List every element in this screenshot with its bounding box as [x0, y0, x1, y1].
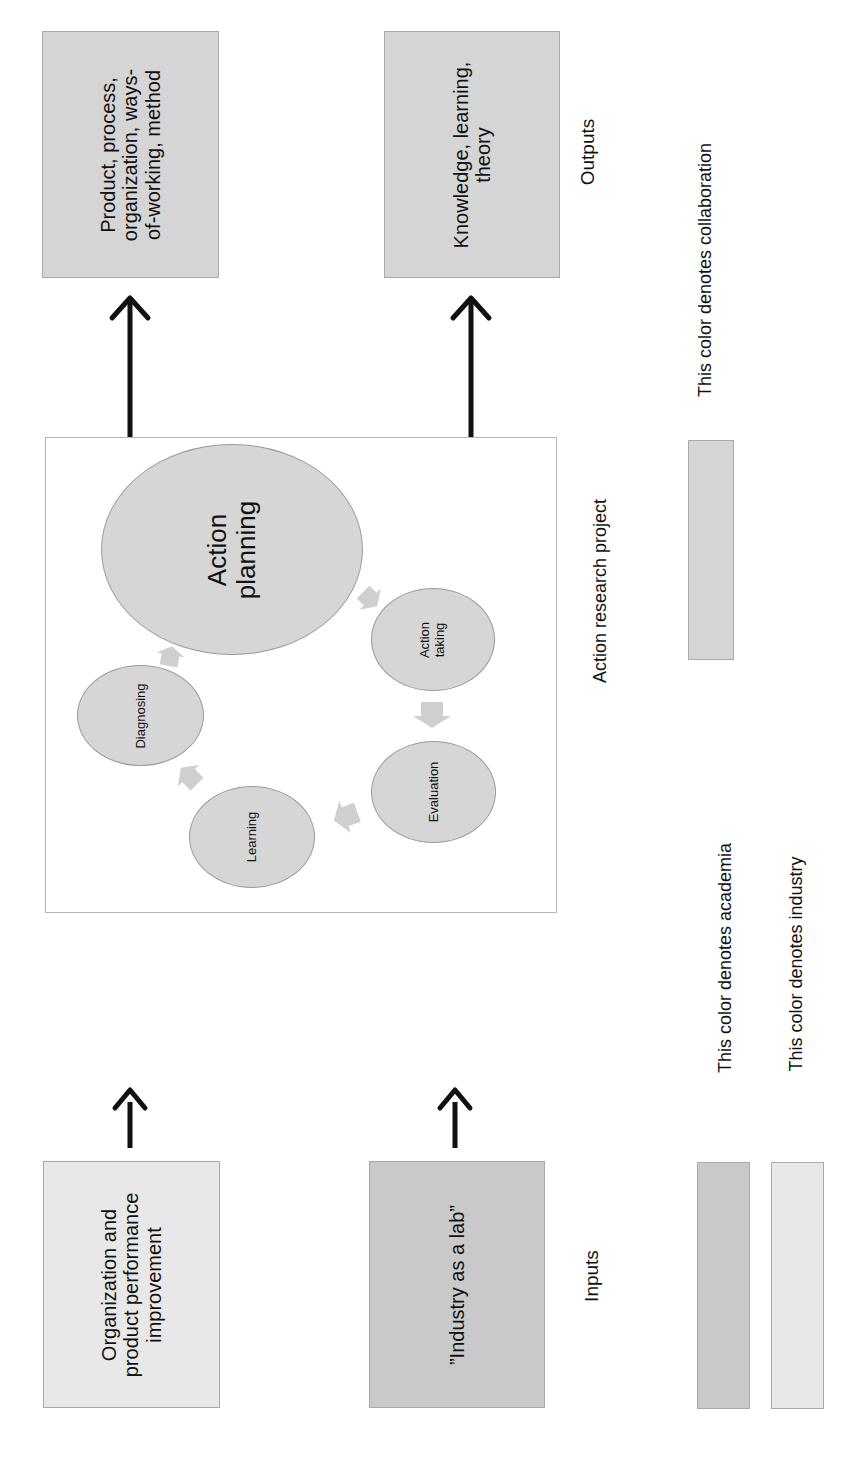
input-box-text: Organization and product performance imp…: [98, 1192, 165, 1377]
cycle-node-action-planning: Action planning: [101, 444, 363, 655]
legend-swatch-collaboration: [688, 440, 734, 660]
cycle-node-learning: Learning: [189, 786, 315, 888]
action-research-project-label: Action research project: [587, 491, 613, 691]
input-box-org-performance: Organization and product performance imp…: [43, 1161, 220, 1408]
legend-label-collaboration: This color denotes collaboration: [692, 130, 718, 410]
legend-label-academia: This color denotes academia: [712, 843, 738, 1073]
cycle-arrow-evaluation-to-learning: [328, 796, 363, 837]
cycle-arrow-taking-to-evaluation: [413, 702, 451, 728]
cycle-node-diagnosing: Diagnosing: [77, 665, 204, 766]
cycle-arrow-diagnosing-to-planning: [155, 644, 186, 669]
cycle-node-evaluation: Evaluation: [371, 741, 496, 843]
legend-swatch-industry: [771, 1162, 824, 1409]
cycle-node-action-taking: Action taking: [371, 588, 495, 691]
legend-label-industry: This color denotes industry: [783, 849, 809, 1079]
cycle-arrow-learning-to-diagnosing: [170, 757, 207, 794]
inputs-label: Inputs: [580, 1241, 604, 1311]
input-box-industry-as-a-lab: ”Industry as a lab”: [369, 1161, 545, 1408]
legend-swatch-academia: [697, 1162, 750, 1409]
